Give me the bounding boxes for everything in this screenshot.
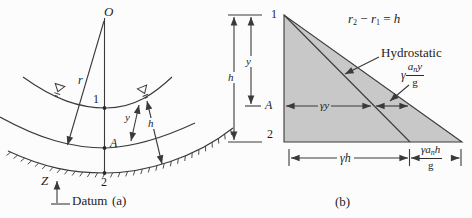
point-2-label-a: 2 [101, 176, 107, 188]
middle-arc [0, 117, 195, 148]
hydrostatic-label: Hydrostatic [381, 46, 442, 59]
ground-hatching [7, 130, 232, 178]
accel-pressure-h-fraction: γanh g [419, 144, 442, 171]
accel-pressure-h-label: γanh g [419, 144, 442, 171]
point-2-label-b: 2 [267, 128, 273, 140]
relation-label: r2 − r1 = h [348, 12, 400, 27]
figure-a-linework [0, 18, 233, 204]
water-surface-symbol-right [137, 85, 151, 99]
pressure-triangle [284, 15, 462, 142]
pressure-distribution-figure: O r 1 A 2 y h Z Datum (a) 1 y h A 2 r2 −… [0, 0, 472, 218]
point-a-dot [103, 146, 107, 150]
dim-y-label-a: y [124, 112, 131, 123]
caption-b: (b) [335, 195, 350, 208]
gamma-h-label: γh [337, 152, 354, 164]
gamma-y-label: γy [318, 100, 331, 111]
dim-y-arrow-a [131, 105, 139, 141]
dim-h-label-a: h [147, 118, 155, 129]
z-axis-label: Z [41, 174, 48, 187]
point-1-label-b: 1 [271, 8, 277, 20]
datum-label: Datum [72, 194, 107, 207]
accel-pressure-y-fraction: any g [406, 61, 424, 88]
dim-h-arrow-a [147, 101, 162, 164]
point-a-label-a: A [110, 137, 117, 149]
point-1-label-a: 1 [93, 93, 99, 105]
dim-y-label-b: y [245, 56, 252, 67]
accel-pressure-y-label: γ any g [401, 61, 424, 88]
dim-h-label-b: h [227, 72, 235, 83]
radius-label: r [78, 74, 83, 86]
radius-arrow [68, 21, 105, 145]
diagram-canvas [0, 0, 472, 218]
point-1-dot [103, 106, 107, 110]
caption-a: (a) [112, 194, 126, 207]
point-a-label-b: A [265, 99, 272, 111]
origin-label: O [104, 5, 113, 18]
